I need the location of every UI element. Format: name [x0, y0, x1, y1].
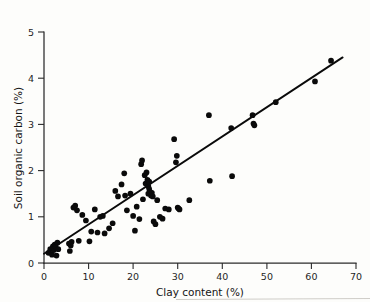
x-tick-label-0: 0	[41, 271, 47, 282]
data-point	[144, 170, 150, 176]
data-point	[122, 193, 128, 199]
y-tick-label-3: 3	[28, 119, 34, 130]
y-axis-ticks	[38, 32, 44, 263]
x-tick-label-50: 50	[261, 271, 273, 282]
y-axis-tick-labels: 0 1 2 3 4 5	[28, 27, 34, 269]
data-point	[102, 231, 108, 237]
data-point	[252, 122, 258, 128]
scatter-plot: 0 1 2 3 4 5 0 10 20 30 40 50 60 70	[0, 0, 370, 302]
data-point	[92, 207, 98, 213]
data-point	[173, 159, 179, 165]
x-axis-tick-labels: 0 10 20 30 40 50 60 70	[41, 271, 362, 282]
x-tick-label-10: 10	[83, 271, 95, 282]
y-tick-label-4: 4	[28, 73, 34, 84]
data-point	[88, 229, 94, 235]
x-axis-title: Clay content (%)	[156, 286, 244, 298]
data-point	[115, 194, 121, 200]
data-point	[67, 248, 73, 254]
data-point	[110, 220, 116, 226]
y-tick-label-1: 1	[28, 211, 34, 222]
data-point	[134, 204, 140, 210]
data-point	[177, 207, 183, 213]
data-point	[121, 171, 127, 177]
data-point	[119, 182, 125, 188]
data-point	[79, 212, 85, 218]
data-point	[95, 230, 101, 236]
y-tick-label-0: 0	[28, 258, 34, 269]
y-tick-label-5: 5	[28, 27, 34, 38]
data-point	[124, 207, 130, 213]
x-tick-label-30: 30	[172, 271, 184, 282]
data-point	[74, 207, 80, 213]
data-point	[130, 213, 136, 219]
data-point	[69, 239, 75, 245]
figure-panel: 0 1 2 3 4 5 0 10 20 30 40 50 60 70	[0, 0, 370, 302]
data-point	[154, 197, 160, 203]
data-point	[153, 221, 159, 227]
y-axis-title: Soil organic carbon (%)	[12, 87, 24, 209]
scan-artifact-line	[176, 299, 370, 300]
data-point	[206, 112, 212, 118]
data-point	[55, 246, 61, 252]
data-point	[171, 136, 177, 142]
data-point	[137, 216, 143, 222]
y-tick-label-2: 2	[28, 165, 34, 176]
data-point	[160, 216, 166, 222]
x-tick-label-40: 40	[216, 271, 228, 282]
data-point	[139, 158, 145, 164]
data-point	[207, 178, 213, 184]
data-point	[106, 226, 112, 232]
data-point	[112, 188, 118, 194]
data-point	[312, 79, 318, 85]
data-point	[229, 173, 235, 179]
data-point	[54, 253, 60, 259]
data-point	[174, 153, 180, 159]
data-point	[140, 196, 146, 202]
x-axis-ticks	[44, 263, 356, 269]
regression-fit-line	[44, 57, 343, 253]
data-point	[132, 228, 138, 234]
x-tick-label-70: 70	[350, 271, 362, 282]
data-point	[87, 238, 93, 244]
x-tick-label-60: 60	[305, 271, 317, 282]
x-tick-label-20: 20	[127, 271, 139, 282]
data-point	[76, 238, 82, 244]
data-point	[186, 197, 192, 203]
data-point	[83, 218, 89, 224]
data-point	[150, 194, 156, 200]
data-point	[166, 207, 172, 213]
